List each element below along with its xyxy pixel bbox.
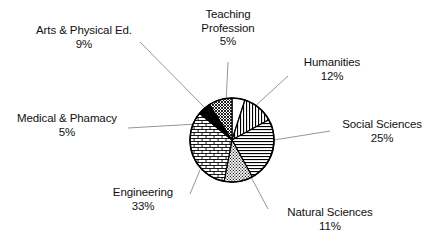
leader-line-social xyxy=(274,131,330,140)
slice-label-arts-percent: 9% xyxy=(8,38,160,52)
slice-label-arts-text: Arts & Physical Ed. xyxy=(36,24,132,36)
slice-label-social-text: Social Sciences xyxy=(342,118,422,130)
slice-label-humanities-percent: 12% xyxy=(282,70,382,84)
slice-label-humanities: Humanities 12% xyxy=(282,56,382,83)
slice-label-engineering: Engineering 33% xyxy=(96,186,190,213)
slice-label-social-sciences: Social Sciences 25% xyxy=(334,118,430,145)
slice-label-natural-percent: 11% xyxy=(272,220,388,234)
leader-line-teaching xyxy=(226,62,228,103)
slice-label-engineering-percent: 33% xyxy=(96,200,190,214)
slice-label-teaching-percent: 5% xyxy=(175,35,281,49)
pie-chart-figure: Arts & Physical Ed. 9% Teaching Professi… xyxy=(0,0,430,246)
leader-line-medical xyxy=(128,124,197,128)
slice-label-teaching-profession: Teaching Profession 5% xyxy=(175,8,281,49)
slice-label-social-percent: 25% xyxy=(334,132,430,146)
slice-label-medical-phamacy: Medical & Phamacy 5% xyxy=(4,112,130,139)
slice-label-natural-text: Natural Sciences xyxy=(287,206,372,218)
slice-label-medical-text: Medical & Phamacy xyxy=(17,112,117,124)
leader-line-natural xyxy=(251,177,268,209)
slice-label-teaching-line1: Teaching xyxy=(205,8,250,20)
leader-line-arts xyxy=(140,42,205,108)
slice-label-natural-sciences: Natural Sciences 11% xyxy=(272,206,388,233)
leader-line-engineering xyxy=(190,170,200,194)
slice-label-teaching-line2: Profession xyxy=(175,22,281,36)
slice-label-humanities-text: Humanities xyxy=(304,56,361,68)
slice-label-arts-physical-ed: Arts & Physical Ed. 9% xyxy=(8,24,160,51)
slice-label-medical-percent: 5% xyxy=(4,126,130,140)
slice-label-engineering-text: Engineering xyxy=(113,186,173,198)
